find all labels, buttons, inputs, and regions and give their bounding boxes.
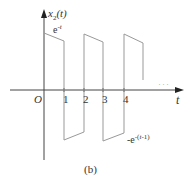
origin-label: O xyxy=(34,94,42,105)
waveform-plot xyxy=(0,0,190,186)
figure-caption: (b) xyxy=(84,164,97,175)
x-axis-label: t xyxy=(176,94,179,106)
pulse-positive-3 xyxy=(124,34,143,90)
annotation-e-neg-t: e-t xyxy=(53,24,62,35)
tick-label-1: 1 xyxy=(63,94,69,105)
tick-label-3: 3 xyxy=(102,94,108,105)
tick-label-2: 2 xyxy=(83,94,89,105)
tick-label-4: 4 xyxy=(123,94,129,105)
y-label-arg: (t) xyxy=(56,7,66,19)
signal-figure: x2(t) e-t -e-(t-1) O 1 2 3 4 t ··· (b) xyxy=(0,0,190,186)
y-axis-label: x2(t) xyxy=(48,8,67,22)
continuation-ellipsis: ··· xyxy=(158,80,170,89)
pulse-positive-2 xyxy=(84,34,103,90)
pulse-positive-1 xyxy=(44,33,64,90)
waveform xyxy=(44,33,143,141)
y-axis-arrow-icon xyxy=(41,9,47,18)
annotation-neg-e-neg-t-minus-1: -e-(t-1) xyxy=(127,134,150,145)
